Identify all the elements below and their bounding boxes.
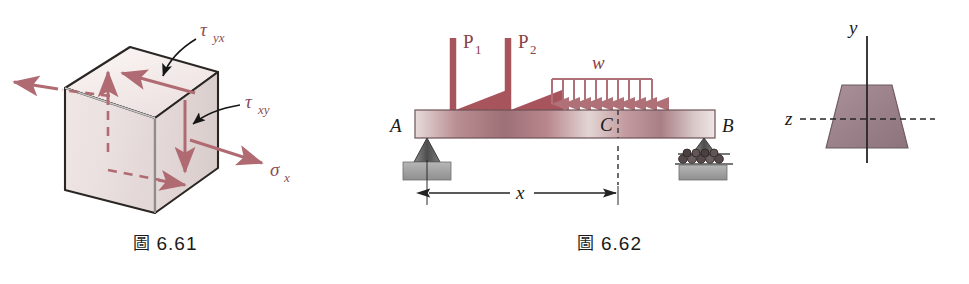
figure-6-61-caption: 圖6.61 — [0, 230, 330, 255]
z-axis-label: z — [784, 108, 793, 129]
sigma-left-arrow — [14, 82, 58, 89]
tau-yx-label: τ yx — [200, 19, 225, 45]
figure-6-62-caption: 圖6.62 — [330, 230, 969, 255]
cross-section-view: y z — [784, 17, 935, 163]
distributed-load-w: w — [552, 52, 652, 104]
label-c: C — [600, 114, 613, 135]
caption-number: 6.62 — [601, 233, 642, 254]
beam-body — [415, 110, 715, 138]
dimension-x: x — [427, 160, 618, 205]
beam-rect — [415, 110, 715, 138]
point-load-p2: P 2 — [508, 31, 537, 112]
p1-symbol: P — [463, 31, 474, 52]
tau-xy-subscript: xy — [257, 102, 270, 117]
label-b: B — [722, 115, 734, 136]
p2-subscript: 2 — [530, 42, 537, 57]
p2-symbol: P — [518, 31, 529, 52]
figure-6-61: τ yx τ xy σ x 圖6.61 — [0, 0, 330, 284]
sigma-x-subscript: x — [283, 170, 290, 185]
sigma-x-label: σ x — [270, 159, 290, 185]
tau-xy-symbol: τ — [245, 91, 253, 112]
point-load-p1: P 1 — [453, 31, 482, 112]
p1-subscript: 1 — [475, 42, 482, 57]
w-symbol: w — [592, 52, 605, 73]
sigma-x-symbol: σ — [270, 159, 280, 180]
tau-xy-label: τ xy — [245, 91, 270, 117]
figure-6-62: P 1 P 2 w — [330, 0, 969, 284]
label-a: A — [388, 115, 402, 136]
tau-yx-symbol: τ — [200, 19, 208, 40]
caption-label-cjk: 圖 — [133, 233, 151, 253]
caption-number: 6.61 — [157, 233, 198, 254]
figure-page: τ yx τ xy σ x 圖6.61 — [0, 0, 969, 284]
caption-label-cjk: 圖 — [577, 233, 595, 253]
dimension-x-label: x — [515, 182, 525, 203]
y-axis-label: y — [847, 17, 858, 38]
cube-body — [65, 47, 218, 213]
tau-yx-subscript: yx — [211, 30, 225, 45]
